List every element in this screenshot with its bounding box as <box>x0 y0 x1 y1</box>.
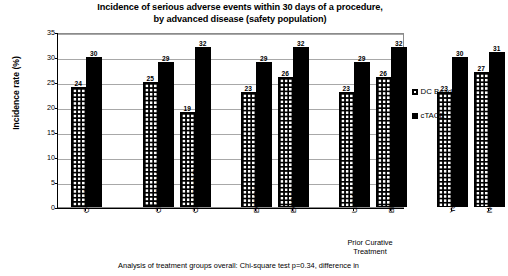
bar-ecog-1-ctace <box>293 47 309 207</box>
bar-bilobar-ctace <box>391 47 407 207</box>
legend-swatch-dc-bead-icon <box>412 89 418 95</box>
bar-value-label: 32 <box>290 41 312 48</box>
y-axis-tick-label: 5 <box>39 179 55 186</box>
bar-value-label: 32 <box>192 41 214 48</box>
y-axis-tick-mark <box>55 108 58 109</box>
bar-overall-ctace <box>86 57 102 207</box>
bar-value-label: 31 <box>486 46 508 53</box>
bar-no-ctace <box>489 52 505 207</box>
plot-area: 243025291932232926322329263223302731 <box>57 33 404 208</box>
legend-item-dc-bead: DC Bead <box>412 88 477 96</box>
x-axis-label-unilobar: Unilobar <box>351 185 358 213</box>
y-axis-tick-label: 30 <box>39 54 55 61</box>
y-axis-tick-label: 25 <box>39 79 55 86</box>
x-axis-label-overall: Overall <box>83 190 90 213</box>
y-axis-tick-label: 10 <box>39 154 55 161</box>
chart-legend: DC Bead cTACE <box>412 88 477 136</box>
chart-title: Incidence of serious adverse events with… <box>50 2 430 25</box>
y-axis-title: Incidence rate (%) <box>11 28 21 158</box>
x-axis-label-ecog-0: ECOG 0 <box>253 185 260 213</box>
y-axis-tick-mark <box>55 158 58 159</box>
legend-label-ctace: cTACE <box>421 112 445 120</box>
y-axis-tick-mark <box>55 183 58 184</box>
gridline <box>58 34 403 35</box>
y-axis-tick-mark <box>55 83 58 84</box>
legend-swatch-ctace-icon <box>412 113 418 119</box>
x-axis-label-bilobar: Bilobar <box>388 190 395 213</box>
chart-title-line-1: Incidence of serious adverse events with… <box>50 2 430 14</box>
bar-value-label: 30 <box>83 51 105 58</box>
legend-item-ctace: cTACE <box>412 112 477 120</box>
bar-value-label: 29 <box>351 56 373 63</box>
group-label-line-2: Treatment <box>332 247 408 256</box>
bar-value-label: 32 <box>388 41 410 48</box>
bar-value-label: 29 <box>155 56 177 63</box>
y-axis-line <box>57 33 58 208</box>
x-axis-label-child-pugh-b: Child-Pugh B <box>192 169 199 213</box>
y-axis-tick-label: 15 <box>39 129 55 136</box>
x-axis-label-ecog-1: ECOG 1 <box>290 185 297 213</box>
y-axis-ticks: 05101520253035 <box>35 33 55 208</box>
chart-title-line-2: by advanced disease (safety population) <box>50 14 430 26</box>
x-axis-group-label-prior-curative-treatment: Prior Curative Treatment <box>332 238 408 256</box>
x-axis-label-yes: Yes <box>449 201 456 213</box>
group-label-line-1: Prior Curative <box>332 238 408 247</box>
y-axis-tick-mark <box>55 133 58 134</box>
y-axis-tick-label: 0 <box>39 204 55 211</box>
bar-value-label: 29 <box>253 56 275 63</box>
y-axis-tick-label: 35 <box>39 29 55 36</box>
y-axis-tick-mark <box>55 33 58 34</box>
bar-bilobar-dc-bead <box>376 77 392 207</box>
x-axis-label-child-pugh-a: Child-Pugh A <box>155 170 162 213</box>
y-axis-tick-label: 20 <box>39 104 55 111</box>
y-axis-tick-mark <box>55 58 58 59</box>
legend-label-dc-bead: DC Bead <box>421 88 453 96</box>
x-axis-label-no: No <box>486 204 493 213</box>
footer-note: Analysis of treatment groups overall: Ch… <box>0 261 477 270</box>
bar-value-label: 30 <box>449 51 471 58</box>
